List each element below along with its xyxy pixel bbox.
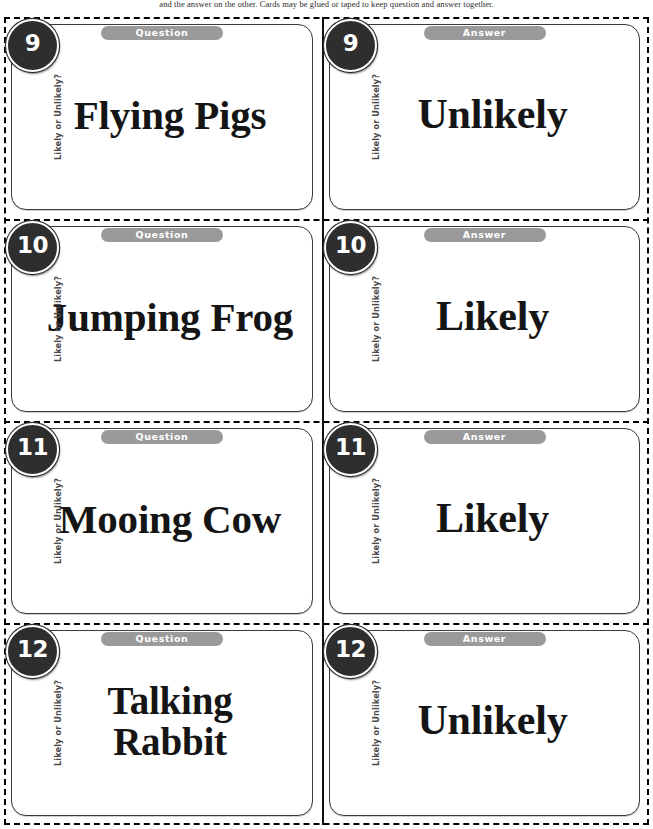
cell-question-12: 12 Question Likely or Unlikely? TalkingR… (4, 623, 322, 825)
card-number-badge: 12 (324, 625, 377, 678)
card-question-text: Mooing Cow (38, 429, 302, 613)
flashcard-answer-12[interactable]: 12 Answer Likely or Unlikely? Unlikely (329, 630, 640, 816)
card-side-label: Likely or Unlikely? (371, 680, 381, 766)
card-type-pill-answer: Answer (424, 430, 546, 444)
card-type-pill-question: Question (101, 430, 223, 444)
card-number-badge: 12 (6, 625, 59, 678)
cell-question-11: 11 Question Likely or Unlikely? Mooing C… (4, 421, 322, 623)
flashcard-grid: 9 Question Likely or Unlikely? Flying Pi… (4, 17, 649, 825)
card-side-label: Likely or Unlikely? (371, 478, 381, 564)
card-type-pill-question: Question (101, 632, 223, 646)
card-answer-text: Likely (356, 227, 629, 411)
card-question-text: Jumping Frog (38, 227, 302, 411)
card-number-badge: 9 (324, 19, 377, 72)
cell-question-9: 9 Question Likely or Unlikely? Flying Pi… (4, 17, 322, 219)
card-type-pill-answer: Answer (424, 228, 546, 242)
cell-question-10: 10 Question Likely or Unlikely? Jumping … (4, 219, 322, 421)
card-question-text: TalkingRabbit (38, 631, 302, 815)
card-number-badge: 11 (6, 423, 59, 476)
card-type-pill-answer: Answer (424, 26, 546, 40)
card-number-badge: 10 (6, 221, 59, 274)
flashcard-answer-11[interactable]: 11 Answer Likely or Unlikely? Likely (329, 428, 640, 614)
cell-answer-10: 10 Answer Likely or Unlikely? Likely (322, 219, 649, 421)
cell-answer-12: 12 Answer Likely or Unlikely? Unlikely (322, 623, 649, 825)
card-side-label: Likely or Unlikely? (53, 74, 63, 160)
card-side-label: Likely or Unlikely? (371, 74, 381, 160)
card-side-label: Likely or Unlikely? (53, 276, 63, 362)
flashcard-answer-10[interactable]: 10 Answer Likely or Unlikely? Likely (329, 226, 640, 412)
flashcard-question-10[interactable]: 10 Question Likely or Unlikely? Jumping … (11, 226, 313, 412)
card-type-pill-question: Question (101, 26, 223, 40)
card-side-label: Likely or Unlikely? (371, 276, 381, 362)
card-answer-text: Unlikely (356, 25, 629, 209)
card-number-badge: 11 (324, 423, 377, 476)
flashcard-answer-9[interactable]: 9 Answer Likely or Unlikely? Unlikely (329, 24, 640, 210)
card-number-badge: 10 (324, 221, 377, 274)
cell-answer-11: 11 Answer Likely or Unlikely? Likely (322, 421, 649, 623)
flashcard-sheet: 9 Question Likely or Unlikely? Flying Pi… (4, 17, 649, 825)
page-instruction-note: and the answer on the other. Cards may b… (0, 0, 653, 10)
card-side-label: Likely or Unlikely? (53, 478, 63, 564)
card-answer-text: Unlikely (356, 631, 629, 815)
card-number-badge: 9 (6, 19, 59, 72)
card-answer-text: Likely (356, 429, 629, 613)
card-side-label: Likely or Unlikely? (53, 680, 63, 766)
flashcard-question-11[interactable]: 11 Question Likely or Unlikely? Mooing C… (11, 428, 313, 614)
card-type-pill-answer: Answer (424, 632, 546, 646)
flashcard-question-9[interactable]: 9 Question Likely or Unlikely? Flying Pi… (11, 24, 313, 210)
card-type-pill-question: Question (101, 228, 223, 242)
card-question-text: Flying Pigs (38, 25, 302, 209)
flashcard-question-12[interactable]: 12 Question Likely or Unlikely? TalkingR… (11, 630, 313, 816)
cell-answer-9: 9 Answer Likely or Unlikely? Unlikely (322, 17, 649, 219)
